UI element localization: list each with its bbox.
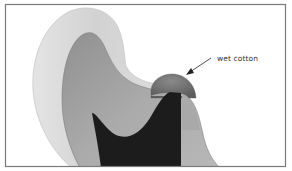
arrow-head-icon (186, 68, 194, 75)
tooth-diagram: wet cotton (0, 0, 292, 171)
arrow-line (190, 58, 211, 72)
wet-cotton-label: wet cotton (217, 54, 258, 63)
